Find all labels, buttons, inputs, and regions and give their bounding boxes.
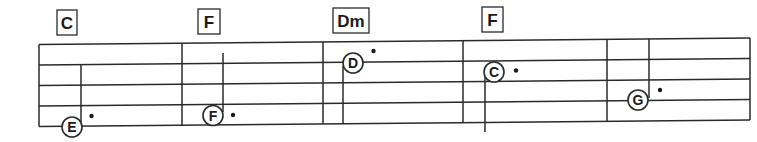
- dot-icon: [89, 114, 93, 118]
- note-letter: C: [489, 64, 499, 80]
- music-staff-figure: C F Dm F E F: [0, 0, 757, 142]
- note-letter: G: [633, 92, 644, 108]
- note-g: G: [628, 39, 662, 110]
- chord-symbol-f: F: [198, 9, 220, 34]
- chord-symbol-c: C: [57, 10, 77, 35]
- chord-symbol-f-2: F: [482, 7, 503, 32]
- note-letter: E: [67, 119, 76, 135]
- staff-line-2: [39, 59, 750, 66]
- dot-icon: [231, 113, 235, 117]
- note-letter: D: [348, 55, 358, 71]
- staff-line-3: [39, 79, 750, 86]
- staff-line-1: [39, 38, 750, 45]
- chord-symbol-dm: Dm: [333, 8, 369, 33]
- dot-icon: [514, 68, 518, 72]
- chord-label: F: [204, 13, 214, 32]
- dot-icon: [371, 49, 375, 53]
- staff-line-5: [39, 120, 750, 127]
- staff-lines: [39, 38, 750, 127]
- note-d: D: [343, 49, 376, 124]
- dot-icon: [658, 88, 662, 92]
- chord-label: F: [487, 11, 497, 30]
- note-letter: F: [209, 108, 218, 124]
- chord-label: Dm: [337, 12, 364, 31]
- chord-label: C: [61, 14, 73, 33]
